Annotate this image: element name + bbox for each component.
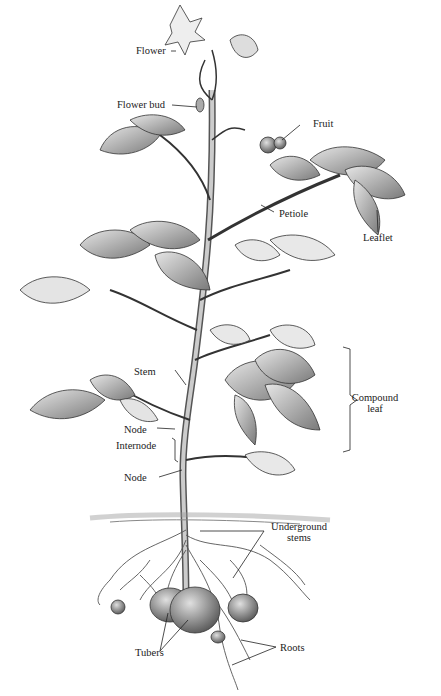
label-node-lower: Node — [124, 472, 147, 483]
label-underground-stems-line1: Underground — [265, 521, 333, 532]
potato-plant-diagram: Flower Flower bud Fruit Petiole Leaflet … — [0, 0, 441, 696]
plant-illustration — [0, 0, 441, 696]
label-compound-leaf-line1: Compound — [345, 392, 405, 403]
label-node-upper: Node — [124, 424, 147, 435]
label-compound-leaf-line2: leaf — [345, 403, 405, 414]
tubers — [111, 587, 258, 643]
label-underground-stems: Underground stems — [265, 521, 333, 543]
label-leaflet: Leaflet — [363, 232, 393, 243]
label-internode: Internode — [116, 440, 156, 451]
label-underground-stems-line2: stems — [265, 532, 333, 543]
label-fruit: Fruit — [313, 118, 333, 129]
label-tubers: Tubers — [135, 647, 164, 658]
label-flower-bud: Flower bud — [117, 99, 165, 110]
label-flower: Flower — [136, 45, 166, 56]
label-roots: Roots — [280, 642, 305, 653]
label-petiole: Petiole — [279, 208, 308, 219]
label-stem: Stem — [134, 366, 156, 377]
label-compound-leaf: Compound leaf — [345, 392, 405, 414]
